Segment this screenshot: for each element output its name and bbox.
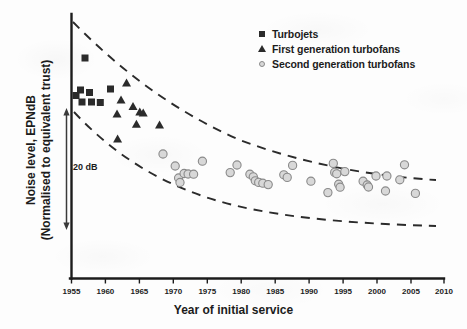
legend-label: First generation turbofans [272, 43, 400, 55]
x-axis-title: Year of initial service [0, 303, 467, 317]
data-point-circle [411, 189, 419, 197]
y-axis-title-line2: (Normalised to equivalent trust) [39, 15, 54, 285]
data-point-circle [336, 183, 344, 191]
data-point-circle [159, 150, 167, 158]
data-point-circle [233, 161, 241, 169]
data-point-circle [198, 157, 206, 165]
twenty-db-arrow [63, 108, 69, 230]
x-tick-label: 1995 [334, 287, 352, 296]
data-point-circle [400, 161, 408, 169]
x-tick-label: 1960 [96, 287, 114, 296]
data-point-circle [171, 162, 179, 170]
circle-marker-icon [255, 61, 269, 67]
legend-item-second-generation-turbofans: Second generation turbofans [255, 57, 415, 70]
data-point-circle [307, 177, 315, 185]
data-point-circle [190, 170, 198, 178]
data-point-circle [341, 168, 349, 176]
x-tick-label: 2000 [368, 287, 386, 296]
x-tick-label: 1980 [232, 287, 250, 296]
series-turbojets [73, 55, 115, 107]
x-tick-label: 1975 [198, 287, 216, 296]
data-point-circle [226, 169, 234, 177]
data-point-circle [283, 173, 291, 181]
data-point-circle [381, 187, 389, 195]
data-point-square [79, 99, 86, 106]
data-point-square [86, 89, 93, 96]
legend-label: Turbojets [272, 28, 318, 40]
data-point-circle [396, 176, 404, 184]
data-point-circle [289, 161, 297, 169]
x-tick-label: 2010 [435, 287, 453, 296]
data-point-triangle [129, 102, 138, 110]
legend-item-first-generation-turbofans: First generation turbofans [255, 42, 415, 55]
data-point-circle [329, 159, 337, 167]
data-point-square [82, 55, 89, 62]
data-point-triangle [117, 96, 126, 104]
data-point-circle [324, 189, 332, 197]
data-point-triangle [113, 135, 122, 143]
data-point-circle [333, 170, 341, 178]
data-point-square [107, 86, 114, 93]
x-tick-label: 2005 [402, 287, 420, 296]
twenty-db-annotation-label: 20 dB [73, 162, 98, 172]
data-point-square [88, 99, 95, 106]
data-point-square [77, 87, 84, 94]
x-tick-label: 1970 [164, 287, 182, 296]
y-axis-title: Noise level, EPNdB (Normalised to equiva… [24, 15, 54, 285]
square-marker-icon [255, 31, 269, 37]
data-point-circle [383, 172, 391, 180]
data-point-circle [364, 183, 372, 191]
data-point-triangle [155, 120, 164, 128]
data-point-triangle [132, 120, 141, 128]
x-tick-label: 1985 [266, 287, 284, 296]
y-axis-title-line1: Noise level, EPNdB [24, 15, 39, 285]
legend-label: Second generation turbofans [272, 58, 415, 70]
x-tick-label: 1965 [130, 287, 148, 296]
series-first-generation-turbofans [113, 79, 165, 143]
data-point-triangle [122, 79, 131, 87]
lower-trend-envelope [74, 112, 436, 226]
legend-item-turbojets: Turbojets [255, 27, 415, 40]
data-point-square [97, 99, 104, 106]
triangle-marker-icon [255, 45, 269, 52]
chart-legend: Turbojets First generation turbofans Sec… [255, 27, 415, 70]
data-point-triangle [113, 110, 122, 118]
data-point-circle [176, 178, 184, 186]
x-tick-label: 1990 [300, 287, 318, 296]
data-point-circle [372, 172, 380, 180]
data-point-circle [264, 181, 272, 189]
x-tick-label: 1955 [63, 287, 81, 296]
noise-level-scatter-chart: Turbojets First generation turbofans Sec… [0, 0, 467, 329]
